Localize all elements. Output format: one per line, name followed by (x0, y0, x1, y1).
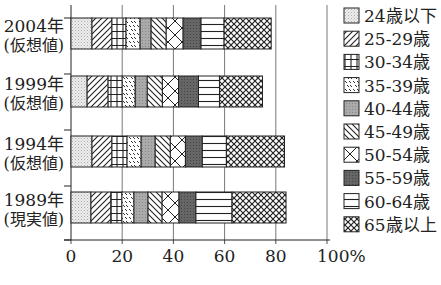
category-year-label: 2004年 (4, 16, 64, 36)
legend-label: 24歳以下 (364, 6, 437, 26)
bar-segment (148, 192, 162, 223)
bars (71, 18, 286, 223)
legend-label: 40-44歳 (364, 99, 430, 119)
bar-row (71, 18, 271, 49)
bar-segment (155, 136, 170, 167)
category-year-label: 1999年 (4, 74, 64, 94)
bar-segment (224, 18, 271, 49)
legend-item: 24歳以下 (344, 6, 437, 26)
legend-item: 55-59歳 (344, 168, 430, 188)
bar-segment (71, 18, 92, 49)
x-tick-label: 100% (317, 246, 366, 266)
legend-label: 45-49歳 (364, 122, 430, 142)
legend-item: 45-49歳 (344, 122, 430, 142)
bar-segment (151, 18, 166, 49)
bar-segment (111, 192, 122, 223)
legend-label: 30-34歳 (364, 52, 430, 72)
bar-segment (127, 136, 141, 167)
legend-item: 35-39歳 (344, 76, 430, 96)
legend-swatch-icon (344, 194, 359, 209)
bar-segment (170, 136, 185, 167)
legend-label: 50-54歳 (364, 145, 430, 165)
legend-swatch-icon (344, 217, 359, 232)
legend-item: 60-64歳 (344, 192, 430, 212)
category-note-label: (仮想値) (4, 94, 64, 113)
bar-segment (179, 76, 199, 107)
legend-swatch-icon (344, 31, 359, 46)
bar-segment (179, 192, 196, 223)
bar-segment (92, 18, 112, 49)
bar-segment (185, 136, 202, 167)
stacked-bar-chart: 2004年(仮想値)1999年(仮想値)1994年(仮想値)1989年(現実値)… (0, 0, 441, 285)
bar-segment (134, 192, 148, 223)
bar-segment (71, 76, 87, 107)
bar-segment (183, 18, 201, 49)
legend-label: 25-29歳 (364, 29, 430, 49)
legend-swatch-icon (344, 54, 359, 69)
x-tick-label: 80 (265, 246, 287, 266)
bar-segment (92, 136, 112, 167)
legend-item: 65歳以上 (344, 215, 437, 235)
bar-segment (91, 192, 111, 223)
category-note-label: (現実値) (4, 210, 64, 229)
bar-segment (108, 76, 122, 107)
bar-segment (147, 76, 162, 107)
legend-swatch-icon (344, 78, 359, 93)
bar-segment (71, 192, 91, 223)
bar-segment (198, 76, 219, 107)
x-tick-label: 20 (111, 246, 133, 266)
legend-item: 50-54歳 (344, 145, 430, 165)
bar-row (71, 136, 285, 167)
bar-segment (219, 76, 262, 107)
legend-swatch-icon (344, 101, 359, 116)
y-axis-ticks (64, 18, 71, 240)
bar-segment (87, 76, 108, 107)
bar-segment (201, 18, 224, 49)
legend-label: 65歳以上 (364, 215, 437, 235)
x-tick-label: 0 (66, 246, 77, 266)
bar-segment (140, 18, 151, 49)
bar-segment (162, 192, 179, 223)
bar-segment (112, 18, 126, 49)
bar-segment (232, 192, 286, 223)
legend-item: 25-29歳 (344, 29, 430, 49)
legend-swatch-icon (344, 8, 359, 23)
legend-swatch-icon (344, 147, 359, 162)
bar-segment (135, 76, 147, 107)
bar-segment (196, 192, 232, 223)
bar-segment (122, 76, 135, 107)
legend-item: 30-34歳 (344, 52, 430, 72)
bar-segment (71, 136, 92, 167)
bar-segment (226, 136, 284, 167)
bar-row (71, 192, 286, 223)
bar-segment (202, 136, 226, 167)
category-labels: 2004年(仮想値)1999年(仮想値)1994年(仮想値)1989年(現実値) (4, 16, 64, 229)
x-tick-labels: 020406080100% (66, 246, 366, 266)
legend-swatch-icon (344, 170, 359, 185)
bar-segment (112, 136, 127, 167)
bar-segment (126, 18, 140, 49)
category-year-label: 1989年 (4, 190, 64, 210)
legend-label: 35-39歳 (364, 76, 430, 96)
legend-item: 40-44歳 (344, 99, 430, 119)
legend: 24歳以下25-29歳30-34歳35-39歳40-44歳45-49歳50-54… (344, 6, 437, 235)
x-tick-label: 40 (163, 246, 185, 266)
bar-segment (162, 76, 178, 107)
category-note-label: (仮想値) (4, 154, 64, 173)
legend-label: 60-64歳 (364, 192, 430, 212)
bar-segment (141, 136, 155, 167)
category-year-label: 1994年 (4, 134, 64, 154)
category-note-label: (仮想値) (4, 36, 64, 55)
x-tick-label: 60 (214, 246, 236, 266)
bar-segment (122, 192, 134, 223)
bar-row (71, 76, 262, 107)
bar-segment (166, 18, 183, 49)
legend-label: 55-59歳 (364, 168, 430, 188)
legend-swatch-icon (344, 124, 359, 139)
